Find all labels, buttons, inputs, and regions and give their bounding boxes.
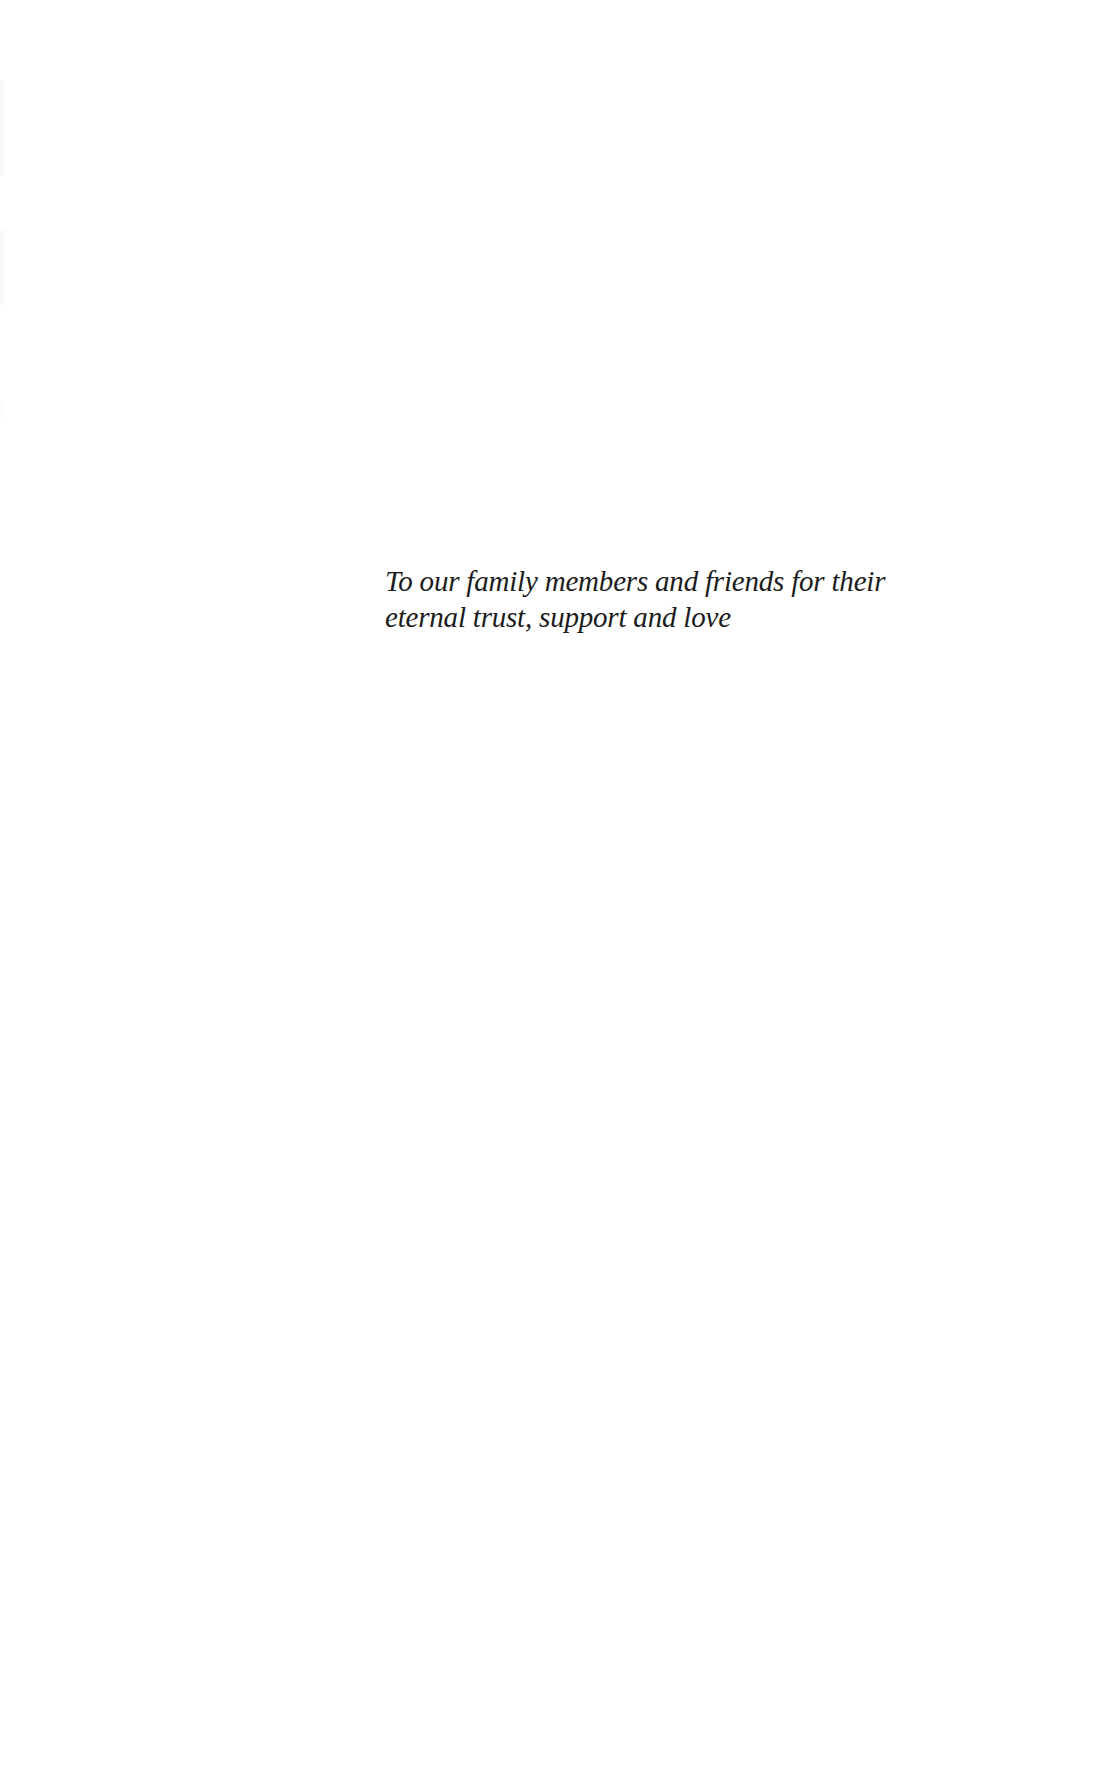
scan-edge-shadow [0,230,7,305]
dedication-line-1: To our family members and friends for th… [385,563,985,599]
scan-edge-shadow [0,400,7,420]
dedication-line-2: eternal trust, support and love [385,599,985,635]
book-page: To our family members and friends for th… [0,0,1099,1779]
scan-edge-shadow [0,80,7,175]
dedication-text: To our family members and friends for th… [385,563,985,635]
